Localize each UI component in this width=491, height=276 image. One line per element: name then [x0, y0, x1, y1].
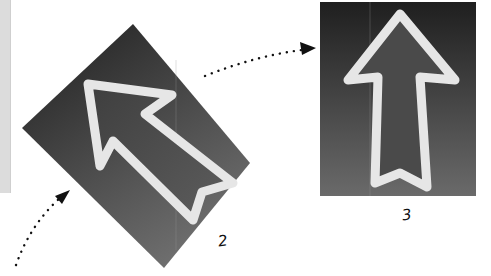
arrowhead-icon — [55, 190, 70, 204]
connector-to-panel-3 — [205, 42, 316, 76]
panel-3 — [320, 2, 476, 196]
panel-2 — [22, 24, 250, 268]
arrowhead-icon — [300, 42, 316, 55]
diagram-canvas — [0, 0, 491, 276]
connector-to-panel-2 — [16, 190, 70, 265]
